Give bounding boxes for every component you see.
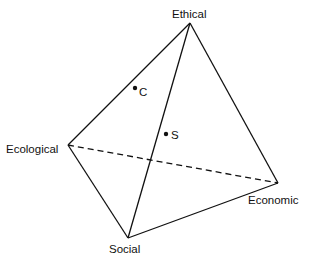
vertex-label-ecological: Ecological (6, 143, 58, 155)
vertex-label-ethical: Ethical (172, 8, 207, 20)
edge-ecological-social (68, 145, 128, 238)
edge-ecological-economic-hidden (68, 145, 278, 183)
vertex-label-social: Social (109, 243, 140, 255)
point-s-marker (164, 132, 168, 136)
tetrahedron-diagram: Ethical Ecological Economic Social C S (0, 0, 311, 265)
point-label-c: C (139, 86, 147, 98)
edge-social-economic (128, 183, 278, 238)
point-label-s: S (171, 129, 179, 141)
edge-ethical-ecological (68, 23, 190, 145)
edge-ethical-economic (190, 23, 278, 183)
vertex-label-economic: Economic (248, 194, 299, 206)
edge-ethical-social (128, 23, 190, 238)
point-c-marker (133, 86, 137, 90)
